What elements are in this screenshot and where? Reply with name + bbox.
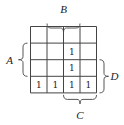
- variable-label-c: C: [76, 109, 84, 121]
- variable-label-d: D: [110, 70, 119, 82]
- variable-label-b: B: [60, 3, 67, 15]
- kmap-cell: 1: [69, 63, 75, 73]
- variable-braces: BADC: [5, 3, 118, 121]
- variable-label-a: A: [5, 54, 13, 66]
- karnaugh-map: 111111 BADC: [0, 0, 124, 125]
- kmap-cell: 1: [36, 80, 42, 90]
- kmap-cell: 1: [69, 47, 75, 57]
- kmap-cell: 1: [85, 80, 91, 90]
- kmap-cell: 1: [52, 80, 58, 90]
- brace-c: [64, 95, 97, 104]
- brace-a: [19, 43, 28, 76]
- brace-d: [100, 60, 109, 93]
- kmap-cell: 1: [69, 80, 75, 90]
